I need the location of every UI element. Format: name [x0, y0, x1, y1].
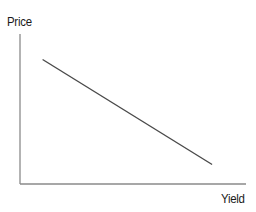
- chart-canvas: [0, 0, 256, 212]
- price-yield-line: [43, 60, 213, 165]
- x-axis-label: Yield: [221, 192, 245, 205]
- y-axis-label: Price: [7, 15, 32, 28]
